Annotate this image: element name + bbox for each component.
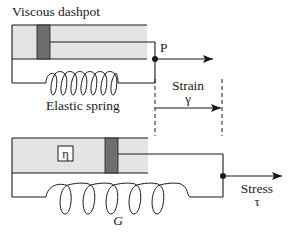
strain-indicator: Strain γ bbox=[155, 78, 222, 136]
viscosity-symbol: η bbox=[62, 147, 69, 161]
spring-label: Elastic spring bbox=[46, 98, 120, 113]
bottom-piston bbox=[105, 138, 118, 173]
top-spring bbox=[46, 72, 118, 95]
top-piston bbox=[37, 25, 50, 59]
top-dashpot bbox=[12, 25, 155, 59]
kelvin-voigt-diagram: Viscous dashpot Elastic spring P Strain … bbox=[0, 0, 293, 234]
point-p-label: P bbox=[160, 40, 168, 55]
modulus-symbol: G bbox=[113, 213, 123, 228]
top-model: Viscous dashpot Elastic spring P bbox=[12, 4, 213, 113]
bottom-spring bbox=[46, 183, 190, 214]
dashpot-label: Viscous dashpot bbox=[12, 4, 100, 19]
bottom-model: η G Stress τ bbox=[12, 138, 282, 228]
stress-symbol: τ bbox=[254, 194, 259, 209]
bottom-dashpot: η bbox=[12, 138, 223, 173]
strain-symbol: γ bbox=[184, 91, 191, 106]
